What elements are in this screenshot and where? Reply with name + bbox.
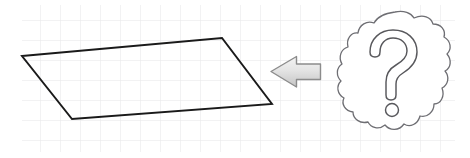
question-mark-dot-icon — [386, 104, 399, 117]
diagram-canvas: Hand-drawn style diagram: a parallelogra… — [0, 0, 470, 158]
figure-svg — [0, 0, 470, 158]
